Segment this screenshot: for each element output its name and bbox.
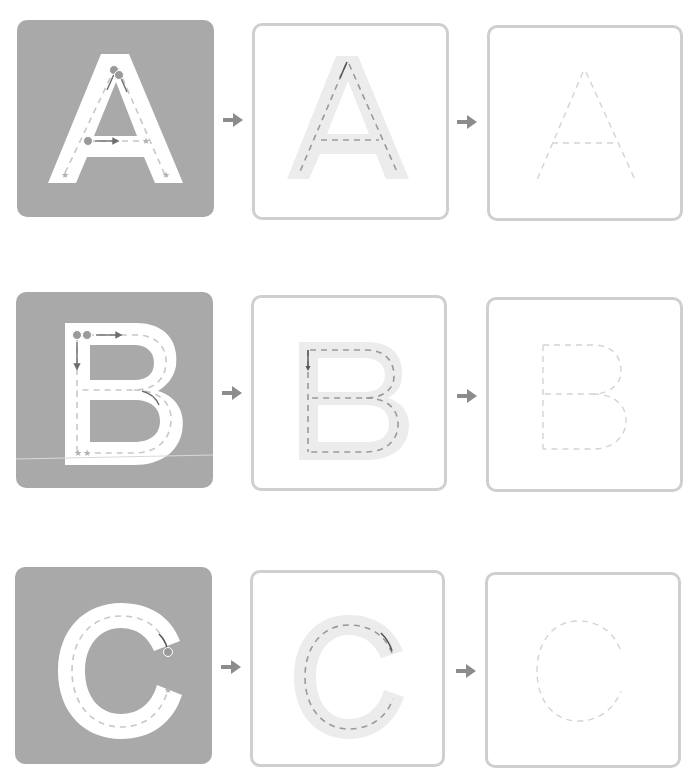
right-arrow-icon	[220, 659, 242, 675]
right-arrow-icon	[222, 112, 244, 128]
guided-trace-card-c[interactable]	[250, 570, 445, 767]
right-arrow-icon	[456, 114, 478, 130]
model-card-c: C ★	[15, 567, 212, 764]
letter-c-solid-icon: ★	[15, 567, 212, 764]
model-card-b: B ★ ★	[16, 292, 213, 488]
right-arrow-icon	[221, 385, 243, 401]
start-marker-icon	[73, 331, 82, 340]
letter-a-outline-icon	[490, 28, 680, 218]
svg-text:★: ★	[83, 448, 91, 458]
guided-trace-card-b[interactable]	[251, 295, 447, 491]
svg-text:★: ★	[162, 170, 170, 180]
svg-text:★: ★	[61, 170, 69, 180]
svg-text:★: ★	[74, 448, 82, 458]
svg-text:★: ★	[164, 685, 172, 695]
right-arrow-icon	[455, 663, 477, 679]
letter-a-solid-icon: ★ ★ ★	[17, 20, 214, 217]
letter-b-solid-icon: ★ ★	[16, 292, 213, 488]
right-arrow-icon	[456, 388, 478, 404]
model-card-a: A ★ ★ ★	[17, 20, 214, 217]
svg-text:★: ★	[142, 136, 150, 146]
start-marker-icon	[164, 648, 173, 657]
letter-c-outline-icon	[488, 575, 678, 765]
guided-trace-card-a[interactable]	[252, 23, 449, 220]
letter-c-guide-icon	[253, 573, 442, 764]
free-trace-card-c[interactable]	[485, 572, 681, 768]
free-trace-card-b[interactable]	[486, 297, 683, 492]
letter-b-guide-icon	[254, 298, 444, 488]
free-trace-card-a[interactable]	[487, 25, 683, 221]
letter-a-guide-icon	[255, 26, 446, 217]
letter-b-outline-icon	[489, 300, 680, 489]
